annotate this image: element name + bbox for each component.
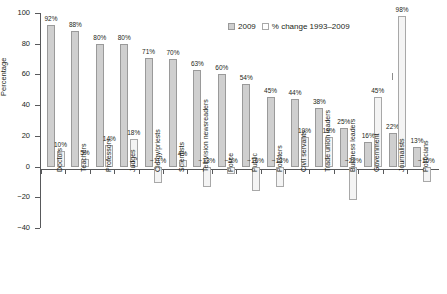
x-axis-tick <box>407 170 408 174</box>
x-axis-category-label: Judges <box>129 149 136 172</box>
x-axis-category-label: Clergy/priests <box>154 129 161 172</box>
bar-2009 <box>193 70 201 167</box>
bar-2009 <box>315 108 323 166</box>
x-axis-category-label: Business leaders <box>349 118 356 171</box>
x-axis-tick <box>285 170 286 174</box>
x-axis-category-label: Scientists <box>178 142 185 172</box>
y-axis-tick <box>35 136 40 137</box>
x-axis-category-label: Teachers <box>80 143 87 171</box>
bar-value-label: 70% <box>160 50 186 57</box>
x-axis-tick <box>41 170 42 174</box>
legend-label-2009: 2009 <box>238 22 256 31</box>
x-axis-tick <box>139 170 140 174</box>
bar-value-label: 88% <box>62 22 88 29</box>
y-axis-tick-label: 40 <box>0 101 30 109</box>
x-axis-category-label: Journalists <box>398 138 405 171</box>
bar-2009 <box>364 142 372 167</box>
bar-2009 <box>145 58 153 167</box>
bar-2009 <box>218 74 226 166</box>
bar-2009 <box>71 31 79 166</box>
bar-2009 <box>96 44 104 167</box>
legend-item-2009: 2009 <box>228 22 256 31</box>
y-axis-tick <box>35 228 40 229</box>
y-axis-tick-label: 80 <box>0 40 30 48</box>
bar-value-label: 45% <box>365 88 391 95</box>
x-axis-tick <box>65 170 66 174</box>
y-axis-tick <box>35 197 40 198</box>
bar-value-label: 63% <box>184 61 210 68</box>
legend-swatch-icon-2009 <box>228 23 235 30</box>
legend-swatch-icon-change <box>262 23 269 30</box>
y-axis-tick-label: 60 <box>0 70 30 78</box>
bar-value-label: 80% <box>111 35 137 42</box>
y-axis-tick-label: 0 <box>0 163 30 171</box>
bar-value-label: 54% <box>233 75 259 82</box>
y-axis-tick-label: −20 <box>0 193 30 201</box>
bar-value-label: 71% <box>136 49 162 56</box>
x-axis-tick <box>114 170 115 174</box>
bar-value-label: 38% <box>306 99 332 106</box>
y-axis-tick <box>35 44 40 45</box>
x-axis-category-label: Politicians <box>422 140 429 172</box>
x-axis-category-label: Public <box>251 152 258 171</box>
x-axis-category-label: Trade union leaders <box>324 110 331 172</box>
y-axis-tick-label: 20 <box>0 132 30 140</box>
bar-value-label: 92% <box>38 16 64 23</box>
y-axis-tick-label: 100 <box>0 9 30 17</box>
stray-tick-icon <box>392 73 393 80</box>
bar-value-label: 44% <box>282 90 308 97</box>
chart-legend: 2009 % change 1993–2009 <box>228 22 350 31</box>
bar-value-label: 80% <box>87 35 113 42</box>
x-axis-tick <box>261 170 262 174</box>
x-axis-category-label: Government <box>373 133 380 172</box>
bar-chart: Percentage 100806040200−20−40 2009 % cha… <box>0 0 447 294</box>
bar-2009 <box>242 84 250 167</box>
x-axis-tick <box>90 170 91 174</box>
x-axis-category-label: Civil servants <box>300 130 307 172</box>
x-axis-tick <box>309 170 310 174</box>
bar-value-label: 98% <box>389 7 415 14</box>
bar-value-label: 18% <box>121 130 147 137</box>
y-axis-tick <box>35 167 40 168</box>
y-axis-tick <box>35 74 40 75</box>
x-axis-category-label: Television newsreaders <box>202 99 209 172</box>
x-axis-category-label: Police <box>227 152 234 171</box>
y-axis-tick-label: −40 <box>0 224 30 232</box>
bar-value-label: 45% <box>258 88 284 95</box>
x-axis-category-label: Professors <box>105 138 112 171</box>
x-axis-tick <box>236 170 237 174</box>
x-axis-tick <box>383 170 384 174</box>
x-axis-category-label: Pollsters <box>276 145 283 172</box>
bar-2009 <box>389 133 397 167</box>
y-axis-tick <box>35 13 40 14</box>
x-axis-tick <box>358 170 359 174</box>
y-axis-tick <box>35 105 40 106</box>
x-axis-tick <box>187 170 188 174</box>
legend-item-change: % change 1993–2009 <box>262 22 350 31</box>
x-axis-tick <box>212 170 213 174</box>
x-axis-tick <box>163 170 164 174</box>
bar-2009 <box>120 44 128 167</box>
x-axis-category-label: Doctors <box>56 147 63 171</box>
bar-value-label: 60% <box>209 65 235 72</box>
legend-label-change: % change 1993–2009 <box>272 22 350 31</box>
y-axis-line <box>40 13 41 228</box>
x-axis-tick <box>334 170 335 174</box>
